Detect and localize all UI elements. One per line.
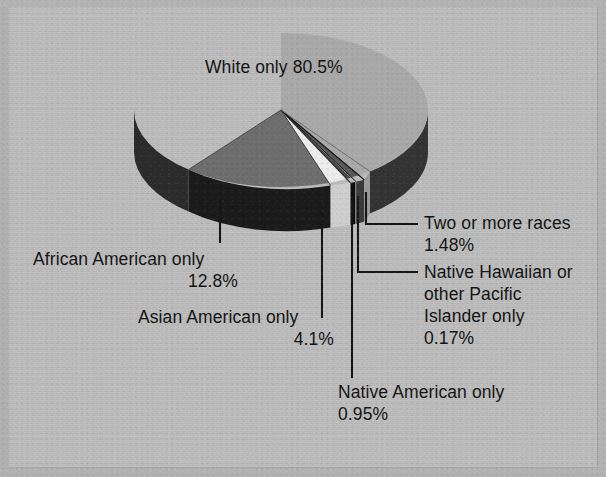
slice-label-native-american-name: Native American only bbox=[338, 382, 504, 403]
slice-label-native-hawaiian-line1: Native Hawaiian or bbox=[424, 262, 573, 283]
slice-label-asian-american-value: 4.1% bbox=[138, 329, 334, 350]
figure-canvas: White only 80.5% African American only 1… bbox=[0, 0, 606, 477]
slice-label-native-hawaiian-line2: other Pacific bbox=[424, 284, 522, 305]
slice-label-african-american-value: 12.8% bbox=[33, 271, 238, 292]
slice-label-two-or-more-value: 1.48% bbox=[424, 235, 474, 256]
slice-label-native-hawaiian-line3: Islander only bbox=[424, 306, 525, 327]
slice-side-white-left bbox=[134, 110, 189, 212]
slice-label-asian-american-name: Asian American only bbox=[138, 307, 298, 328]
slice-label-african-american-name: African American only bbox=[33, 249, 204, 270]
slice-label-two-or-more-name: Two or more races bbox=[424, 213, 571, 234]
slice-side-native-hawaiian bbox=[355, 182, 356, 224]
slice-label-native-hawaiian-value: 0.17% bbox=[424, 328, 474, 349]
slice-label-white: White only 80.5% bbox=[205, 57, 343, 78]
slice-side-asian-american bbox=[331, 183, 351, 228]
slice-label-native-american-value: 0.95% bbox=[338, 404, 388, 425]
